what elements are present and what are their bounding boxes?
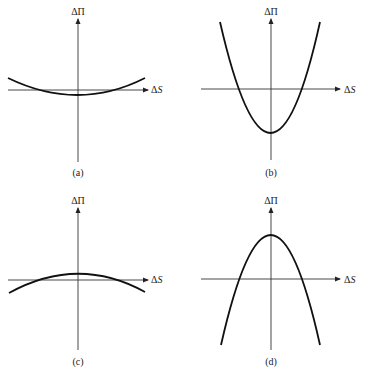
curve-d [221,235,320,345]
y-axis-label: ΔΠ [71,6,85,17]
caption-d: (d) [265,356,277,368]
caption-a: (a) [72,167,83,179]
y-axis-label: ΔΠ [71,195,85,206]
caption-b: (b) [265,167,277,179]
figure-canvas: ΔΠ ΔS (a) ΔΠ ΔS (b) ΔΠ ΔS (c) ΔΠ ΔS (d) [0,0,367,374]
x-axis-label: ΔS [151,274,162,285]
x-axis-label: ΔS [151,84,162,95]
y-axis-label: ΔΠ [264,195,278,206]
panel-a: ΔΠ ΔS (a) [8,6,162,179]
panel-c: ΔΠ ΔS (c) [8,195,162,368]
x-axis-label: ΔS [344,84,355,95]
panel-b: ΔΠ ΔS (b) [201,6,355,179]
curve-a [8,78,145,95]
caption-c: (c) [72,356,83,368]
curve-c [9,274,145,293]
x-axis-label: ΔS [344,274,355,285]
curve-b [220,22,320,133]
y-axis-label: ΔΠ [264,6,278,17]
panel-d: ΔΠ ΔS (d) [201,195,355,368]
